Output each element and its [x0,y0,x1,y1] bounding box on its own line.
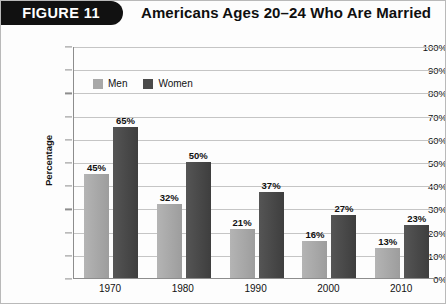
legend-swatch-icon [93,79,103,89]
bar-men-2000 [302,241,327,278]
y-axis-tick-mark [65,232,72,233]
legend-label: Men [108,78,127,89]
figure-number-tab: FIGURE 11 [0,1,123,25]
legend-label: Women [158,78,192,89]
y-axis-tick-mark [65,70,72,71]
bar-value-label: 16% [305,229,324,240]
bar-value-label: 45% [87,162,106,173]
y-axis-tick-mark [65,93,72,94]
x-axis-tick-label: 1980 [172,283,194,294]
y-axis-tick-mark [65,278,72,279]
bar-women-2010 [404,225,429,278]
bar-value-label: 13% [378,236,397,247]
bar-women-1970 [113,127,138,278]
chart-title: Americans Ages 20–24 Who Are Married [141,4,431,21]
bar-women-1980 [186,162,211,278]
y-axis-title: Percentage [43,135,54,186]
y-axis-tick-mark [65,255,72,256]
y-axis-tick-mark [65,186,72,187]
bar-men-2010 [375,248,400,278]
bar-value-label: 32% [160,192,179,203]
bar-group: 13%23% [365,47,438,278]
y-axis-tick-mark [65,162,72,163]
legend-item: Men [93,78,127,89]
x-axis-tick-label: 2000 [317,283,339,294]
chart-legend: MenWomen [93,78,193,89]
figure-header: FIGURE 11 Americans Ages 20–24 Who Are M… [1,1,445,27]
x-axis-tick-label: 1990 [244,283,266,294]
bar-men-1980 [157,204,182,278]
bar-value-label: 27% [334,203,353,214]
figure-container: FIGURE 11 Americans Ages 20–24 Who Are M… [0,0,446,304]
bar-men-1970 [84,174,109,278]
bar-value-label: 23% [407,213,426,224]
legend-swatch-icon [143,79,153,89]
y-axis-tick-mark [65,46,72,47]
y-axis-tick-mark [65,116,72,117]
legend-item: Women [143,78,192,89]
x-axis-tick-label: 2010 [390,283,412,294]
bar-value-label: 37% [262,180,281,191]
plot-wrapper: Percentage 0%10%20%30%40%50%60%70%80%90%… [1,27,446,304]
y-axis-tick-mark [65,209,72,210]
figure-number-label: FIGURE 11 [22,5,100,21]
bar-women-1990 [259,192,284,278]
x-axis-tick-label: 1970 [99,283,121,294]
bar-value-label: 50% [189,150,208,161]
bar-value-label: 65% [116,115,135,126]
bar-women-2000 [331,215,356,278]
bar-men-1990 [230,229,255,278]
bar-group: 21%37% [220,47,293,278]
y-axis-tick-mark [65,139,72,140]
bar-value-label: 21% [233,217,252,228]
bar-group: 16%27% [292,47,365,278]
